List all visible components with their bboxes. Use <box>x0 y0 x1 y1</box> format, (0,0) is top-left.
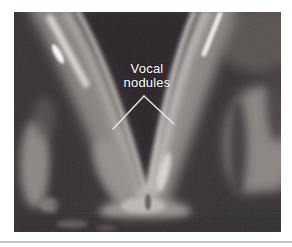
page: Vocal nodules <box>0 0 292 247</box>
bottom-rule <box>0 241 292 243</box>
laryngoscopy-photo: Vocal nodules <box>14 12 281 232</box>
film-grain <box>14 12 281 232</box>
vocal-cords-photo-art <box>14 12 281 232</box>
